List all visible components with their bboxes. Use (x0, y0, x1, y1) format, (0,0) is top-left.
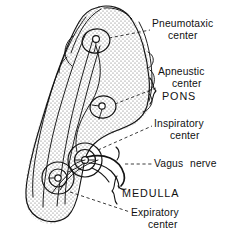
medulla-brace-icon (112, 176, 117, 204)
brainstem-diagram: Pneumotaxic center Apneustic center PONS… (0, 0, 236, 243)
label-pneumotaxic-line1: Pneumotaxic (152, 18, 213, 29)
label-expiratory-line1: Expiratory (131, 207, 180, 218)
label-inspiratory-line1: Inspiratory (154, 118, 204, 129)
label-pons: PONS (162, 90, 196, 102)
vagus-tertiary-branch (92, 168, 109, 182)
label-nerve: nerve (190, 158, 217, 169)
label-medulla: MEDULLA (122, 187, 179, 199)
label-apneustic-line2: center (172, 78, 202, 89)
label-vagus: Vagus (154, 158, 183, 169)
label-expiratory-line2: center (148, 219, 178, 230)
vagus-nerve-fiber (87, 156, 126, 190)
label-inspiratory-line2: center (170, 130, 200, 141)
label-apneustic-line1: Apneustic (158, 66, 205, 77)
leader-expiratory (70, 192, 130, 212)
vagus-nub-icon (116, 147, 119, 160)
anatomical-figure: Pneumotaxic center Apneustic center PONS… (0, 0, 236, 243)
label-pneumotaxic-line2: center (168, 30, 198, 41)
